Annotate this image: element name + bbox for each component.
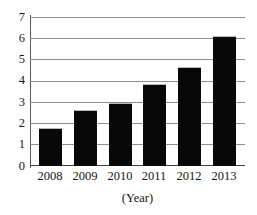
y-tick-label-5: 5 — [8, 53, 25, 66]
plot-area — [30, 17, 245, 166]
x-axis-tick-labels: 2008 2009 2010 2011 2012 2013 — [30, 170, 245, 188]
y-tick-label-1: 1 — [8, 138, 25, 151]
y-tick-label-0: 0 — [8, 160, 25, 173]
bar-chart: 7 6 5 4 3 2 1 0 2008 2009 2010 2011 — [0, 0, 257, 215]
y-tick-label-3: 3 — [8, 96, 25, 109]
x-axis-title: (Year) — [30, 192, 245, 205]
y-axis-tick-labels: 7 6 5 4 3 2 1 0 — [8, 0, 25, 215]
y-tick-label-7: 7 — [8, 11, 25, 24]
bars-layer — [30, 17, 245, 166]
y-tick-label-4: 4 — [8, 74, 25, 87]
bar-2011 — [143, 84, 166, 167]
bar-2010 — [109, 103, 132, 166]
y-tick-label-6: 6 — [8, 32, 25, 45]
bar-2012 — [178, 67, 201, 166]
bar-2013 — [213, 36, 236, 166]
x-tick-label-2013: 2013 — [201, 170, 247, 183]
y-tick-label-2: 2 — [8, 117, 25, 130]
bar-2009 — [74, 110, 97, 166]
bar-2008 — [39, 128, 62, 166]
